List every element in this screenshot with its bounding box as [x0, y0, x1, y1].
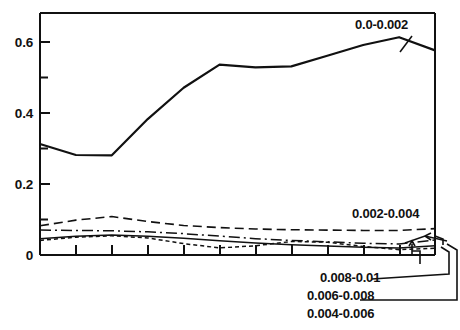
y-tick-label-0-6: 0.6 [15, 35, 34, 50]
annotation-label-0-004-0-006: 0.004-0.006 [307, 306, 374, 321]
line-chart: 0 0.2 0.4 0.6 0.0-0.002 0.002-0.004 0.00… [0, 0, 460, 330]
y-tick-label-0: 0 [26, 248, 33, 263]
chart-background [0, 0, 460, 330]
annotation-label-0-002-0-004: 0.002-0.004 [352, 206, 420, 221]
y-tick-label-0-4: 0.4 [15, 106, 34, 121]
annotation-label-0-008-0-01: 0.008-0.01 [320, 270, 380, 285]
y-tick-label-0-2: 0.2 [15, 177, 33, 192]
annotation-label-0-0-0-002: 0.0-0.002 [355, 17, 408, 32]
annotation-label-0-006-0-008: 0.006-0.008 [307, 288, 374, 303]
chart-figure: 0 0.2 0.4 0.6 0.0-0.002 0.002-0.004 0.00… [0, 0, 460, 330]
